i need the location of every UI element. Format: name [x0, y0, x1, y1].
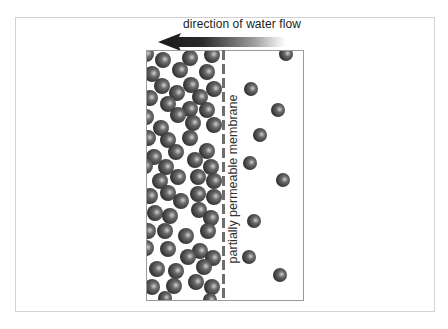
membrane-label: partially permeable membrane	[226, 95, 240, 264]
dilute-side-particles	[242, 47, 293, 282]
membrane-dashed-line	[222, 50, 225, 301]
concentrated-side-particles	[137, 46, 222, 307]
